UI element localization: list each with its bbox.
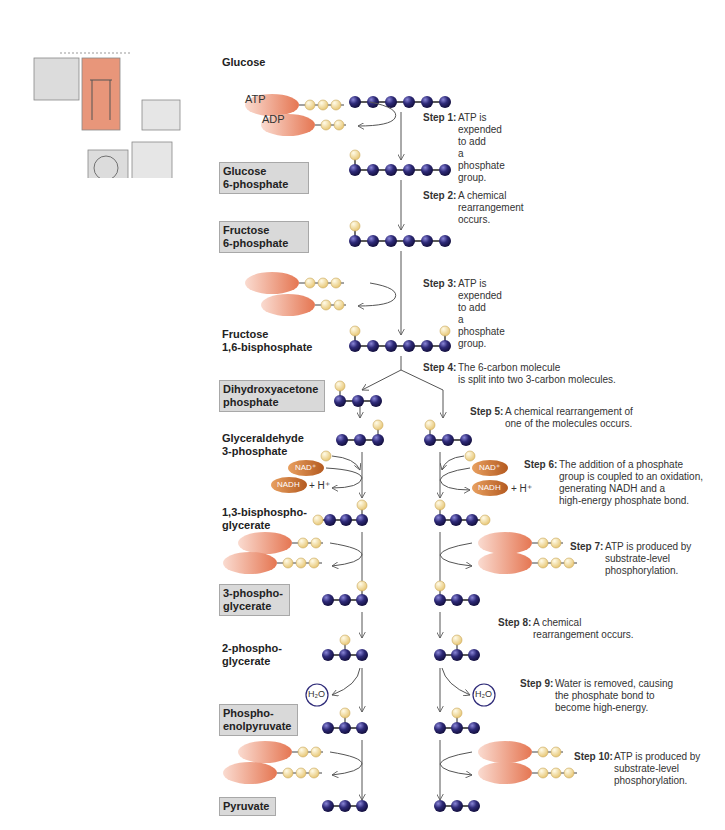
step-3-number: Step 3: bbox=[423, 278, 456, 289]
molecule-label-glucose-6-phosphate: Glucose 6-phosphate bbox=[219, 162, 309, 194]
molecule-label-2pg: 2-phospho- glycerate bbox=[222, 642, 282, 668]
step-2: Step 2: A chemical rearrangement occurs. bbox=[423, 190, 456, 202]
step-5: Step 5: A chemical rearrangement of one … bbox=[470, 406, 503, 418]
molecule-label-g3p: Glyceraldehyde 3-phosphate bbox=[222, 432, 304, 458]
step-7-text: ATP is produced by substrate-level phosp… bbox=[605, 541, 691, 577]
step-8: Step 8: A chemical rearrangement occurs. bbox=[498, 617, 531, 629]
glucose-6-phosphate-molecule bbox=[349, 150, 451, 176]
step-8-text: A chemical rearrangement occurs. bbox=[533, 617, 634, 641]
step-4-text: The 6-carbon molecule is split into two … bbox=[458, 362, 616, 386]
step-6-number: Step 6: bbox=[524, 459, 557, 470]
dhap-molecule bbox=[334, 381, 382, 407]
step-2-number: Step 2: bbox=[423, 190, 456, 201]
step-10-number: Step 10: bbox=[574, 751, 613, 762]
molecule-label-dhap: Dihydroxyacetone phosphate bbox=[219, 380, 325, 412]
nad-plus-left: NAD⁺ bbox=[295, 463, 316, 472]
fructose-6-phosphate-molecule bbox=[349, 221, 451, 247]
step-9: Step 9: Water is removed, causing the ph… bbox=[520, 678, 553, 690]
step-6: Step 6: The addition of a phosphate grou… bbox=[524, 459, 557, 471]
2pg-left bbox=[322, 635, 368, 661]
step-9-text: Water is removed, causing the phosphate … bbox=[555, 678, 673, 714]
step-4: Step 4: The 6-carbon molecule is split i… bbox=[423, 362, 456, 374]
molecule-label-glucose: Glucose bbox=[222, 56, 265, 69]
water-right: H₂O bbox=[475, 689, 492, 699]
pyruvate-left bbox=[322, 800, 368, 812]
g3p-left bbox=[336, 420, 384, 446]
adp-label: ADP bbox=[262, 113, 285, 125]
3pg-right bbox=[434, 581, 480, 606]
atp-label: ATP bbox=[245, 93, 266, 105]
step-1-number: Step 1: bbox=[423, 112, 456, 123]
3pg-left bbox=[322, 581, 368, 606]
bpg-left bbox=[313, 500, 368, 526]
step-5-text: A chemical rearrangement of one of the m… bbox=[505, 406, 633, 430]
step-7: Step 7: ATP is produced by substrate-lev… bbox=[570, 541, 603, 553]
h-plus-left: + H⁺ bbox=[309, 480, 330, 491]
g3p-right bbox=[424, 420, 472, 446]
molecule-label-fructose-bisphosphate: Fructose 1,6-bisphosphate bbox=[222, 328, 312, 354]
nadh-left: NADH bbox=[277, 480, 300, 489]
water-left: H₂O bbox=[308, 689, 325, 699]
step-10: Step 10: ATP is produced by substrate-le… bbox=[574, 751, 613, 763]
step-3: Step 3: ATP is expended to add a phospha… bbox=[423, 278, 456, 290]
step-3-text: ATP is expended to add a phosphate group… bbox=[458, 278, 505, 350]
bpg-right bbox=[434, 500, 490, 526]
pyruvate-right bbox=[434, 800, 480, 812]
molecule-label-fructose-6-phosphate: Fructose 6-phosphate bbox=[219, 221, 309, 253]
molecule-label-1-3-bpg: 1,3-bisphospho- glycerate bbox=[222, 506, 307, 532]
step-4-number: Step 4: bbox=[423, 362, 456, 373]
h-plus-right: + H⁺ bbox=[511, 483, 532, 494]
molecule-label-pyruvate: Pyruvate bbox=[219, 797, 276, 816]
pep-right bbox=[434, 708, 480, 734]
step-5-number: Step 5: bbox=[470, 406, 503, 417]
step-8-number: Step 8: bbox=[498, 617, 531, 628]
glucose-molecule bbox=[349, 96, 451, 108]
molecule-label-3pg: 3-phospho- glycerate bbox=[219, 584, 290, 616]
step-1-text: ATP is expended to add a phosphate group… bbox=[458, 112, 505, 184]
step-2-text: A chemical rearrangement occurs. bbox=[458, 190, 524, 226]
step-1: Step 1: ATP is expended to add a phospha… bbox=[423, 112, 456, 124]
nad-plus-right: NAD⁺ bbox=[479, 463, 500, 472]
pep-left bbox=[322, 708, 368, 734]
fructose-bisphosphate-molecule bbox=[349, 326, 451, 352]
step-10-text: ATP is produced by substrate-level phosp… bbox=[614, 751, 700, 787]
molecule-label-pep: Phospho- enolpyruvate bbox=[219, 704, 298, 736]
step-6-text: The addition of a phosphate group is cou… bbox=[559, 459, 703, 507]
nadh-right: NADH bbox=[478, 483, 501, 492]
step-9-number: Step 9: bbox=[520, 678, 553, 689]
step-7-number: Step 7: bbox=[570, 541, 603, 552]
2pg-right bbox=[434, 635, 480, 661]
